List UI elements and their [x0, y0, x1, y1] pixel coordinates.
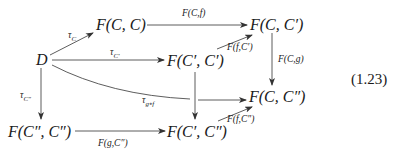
node-F-Cp-Cpp: F(C′, C″): [167, 124, 227, 140]
commutative-diagram: D F(C, C) F(C, C′) F(C′, C′) F(C, C″) F(…: [0, 0, 397, 154]
label-F-f-Cp: F(f,C′): [227, 43, 253, 53]
node-F-C-C: F(C, C): [96, 17, 146, 33]
label-tau-gof: τg∘f: [142, 96, 154, 108]
equation-number: (1.23): [351, 72, 387, 87]
node-F-Cp-Cp: F(C′, C′): [167, 53, 224, 69]
node-F-Cpp-Cpp: F(C″, C″): [8, 124, 71, 140]
label-F-f-Cpp: F(f,C″): [227, 115, 254, 125]
label-F-C-g: F(C,g): [278, 55, 304, 65]
arrow-tau-gof: [52, 65, 190, 99]
node-F-C-Cp: F(C, C′): [250, 17, 303, 33]
label-F-C-f: F(C,f): [182, 9, 205, 19]
label-F-g-Cpp: F(g,C″): [98, 139, 128, 149]
label-tau-C: τC: [68, 31, 76, 43]
label-tau-Cpp: τC″: [20, 91, 31, 103]
node-D: D: [36, 52, 48, 68]
label-tau-Cp: τC′: [110, 48, 120, 60]
node-F-C-Cpp: F(C, C″): [249, 89, 305, 105]
